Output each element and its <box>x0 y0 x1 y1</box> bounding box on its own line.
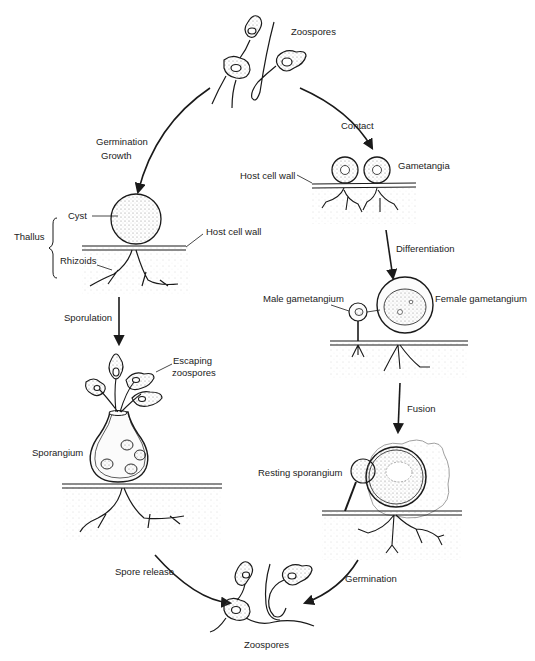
label-germination: Germination <box>96 136 148 147</box>
label-resting-sporangium: Resting sporangium <box>258 467 343 478</box>
arrow-fusion <box>398 383 400 432</box>
arrow-spore-release <box>155 555 230 603</box>
label-gametangia: Gametangia <box>398 160 450 171</box>
label-host-cell-wall-left: Host cell wall <box>206 226 261 237</box>
label-sporangium: Sporangium <box>32 447 83 458</box>
label-thallus: Thallus <box>14 231 45 242</box>
label-sporulation: Sporulation <box>64 312 112 323</box>
label-cyst: Cyst <box>68 210 87 221</box>
label-female-gametangium: Female gametangium <box>435 293 527 304</box>
label-top-zoospores: Zoospores <box>291 26 336 37</box>
label-differentiation: Differentiation <box>396 243 454 254</box>
label-host-cell-wall-right: Host cell wall <box>240 170 295 181</box>
label-bottom-zoospores: Zoospores <box>244 639 289 650</box>
label-growth: Growth <box>101 150 132 161</box>
label-spore-release: Spore release <box>115 566 174 577</box>
label-germination-final: Germination <box>345 573 397 584</box>
sporangium-illustration <box>62 354 222 540</box>
label-contact: Contact <box>341 120 374 131</box>
label-rhizoids: Rhizoids <box>60 255 96 266</box>
label-escaping: Escaping <box>173 355 212 366</box>
label-escaping-zoospores: zoospores <box>172 367 216 378</box>
arrow-contact <box>300 88 372 148</box>
label-fusion: Fusion <box>407 403 436 414</box>
bottom-zoospores-illustration <box>210 562 314 632</box>
resting-sporangium-illustration <box>322 440 462 560</box>
life-cycle-diagram <box>0 0 535 661</box>
thallus-illustration <box>49 194 203 294</box>
label-male-gametangium: Male gametangium <box>263 293 344 304</box>
arrow-differentiation <box>386 230 393 278</box>
arrow-germination-growth <box>138 88 210 192</box>
